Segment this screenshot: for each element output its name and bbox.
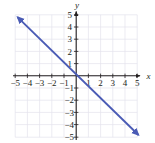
y-tick-label: 4 (68, 22, 73, 32)
y-axis-label: y (74, 0, 79, 10)
graph-canvas: −5 −4 −3 −2 −1 1 2 3 4 5 5 4 3 2 1 −1 −2… (0, 0, 155, 143)
y-tick-label: 2 (68, 47, 73, 57)
x-tick-label: −2 (47, 78, 57, 88)
y-tick-label: −2 (64, 95, 74, 105)
y-tick-label: −1 (64, 83, 74, 93)
y-tick-label: −5 (64, 132, 74, 142)
x-tick-label: −3 (35, 78, 45, 88)
x-tick-label: 4 (123, 78, 128, 88)
y-tick-label: −4 (64, 120, 74, 130)
x-tick-label: 5 (135, 78, 140, 88)
y-tick-label: 5 (68, 10, 73, 20)
y-tick-label: −3 (64, 108, 74, 118)
x-tick-label: −4 (23, 78, 33, 88)
coordinate-plane-figure: −5 −4 −3 −2 −1 1 2 3 4 5 5 4 3 2 1 −1 −2… (0, 0, 155, 143)
x-tick-label: 3 (111, 78, 116, 88)
x-tick-label: 2 (98, 78, 103, 88)
y-tick-label: 3 (68, 34, 73, 44)
x-axis-label: x (146, 71, 151, 81)
x-tick-label: −5 (10, 78, 20, 88)
